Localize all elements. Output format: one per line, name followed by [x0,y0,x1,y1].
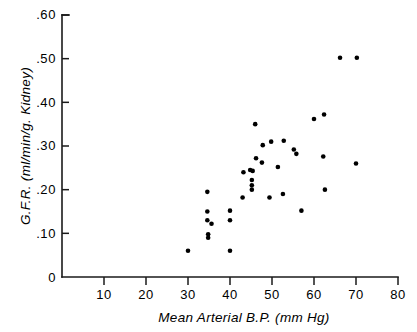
y-tick-label: 0 [48,270,56,285]
data-point [209,221,214,226]
data-point [205,190,210,195]
data-point [240,195,245,200]
data-point [281,138,286,143]
data-point [323,187,328,192]
x-tick-label: 10 [96,287,112,302]
y-tick-label: .50 [36,51,56,66]
scatter-series [186,55,359,253]
x-axis-ticks [104,277,398,285]
data-point [355,55,360,60]
data-point [260,143,265,148]
data-point [276,165,281,170]
scatter-plot-figure: .60.50.40.30.20.100 1020304050607080 G.F… [0,0,417,332]
y-tick-label: .40 [36,95,56,110]
y-tick-label: .60 [36,7,56,22]
data-point [250,187,255,192]
data-point [205,209,210,214]
data-point [205,218,210,223]
data-point [322,112,327,117]
x-axis-tick-labels: 1020304050607080 [96,287,406,302]
data-point [206,235,211,240]
data-point [294,152,299,157]
x-tick-label: 20 [138,287,154,302]
data-point [267,195,272,200]
data-point [338,55,343,60]
y-tick-label: .30 [36,138,56,153]
data-point [186,249,191,254]
x-tick-label: 40 [222,287,238,302]
x-tick-label: 70 [348,287,364,302]
y-tick-label: .20 [36,182,56,197]
data-point [250,183,255,188]
y-axis-tick-labels: .60.50.40.30.20.100 [36,7,56,284]
plot-canvas: .60.50.40.30.20.100 1020304050607080 G.F… [0,0,417,332]
data-point [228,249,233,254]
data-point [260,160,265,165]
data-point [312,117,317,122]
data-point [228,218,233,223]
data-point [321,154,326,159]
y-axis-ticks [62,15,69,233]
axis-group [62,15,398,277]
data-point [250,178,255,183]
x-tick-label: 30 [180,287,196,302]
data-point [269,139,274,144]
x-tick-label: 60 [306,287,322,302]
data-point [354,161,359,166]
data-point [281,192,286,197]
data-point [250,169,255,174]
data-point [299,208,304,213]
x-tick-label: 80 [390,287,406,302]
x-tick-label: 50 [264,287,280,302]
y-tick-label: .10 [36,226,56,241]
data-point [254,156,259,161]
x-axis-title: Mean Arterial B.P. (mm Hg) [158,310,329,325]
data-point [292,147,297,152]
data-point [253,122,258,127]
data-point [228,208,233,213]
y-axis-title: G.F.R. (ml/min/g. Kidney) [18,67,33,225]
data-point [241,170,246,175]
